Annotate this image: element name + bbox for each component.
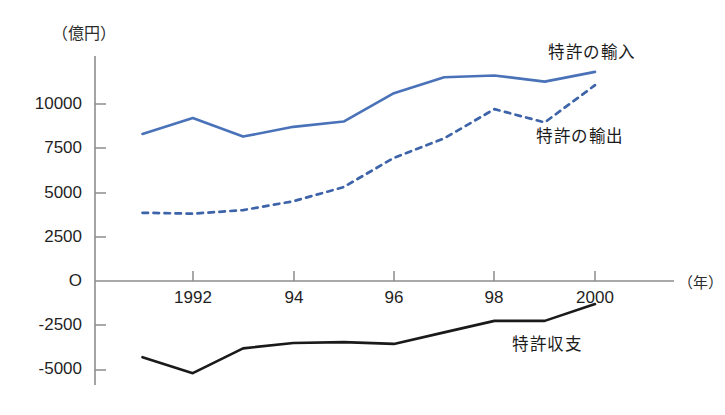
- ytick-label-10000: 10000: [12, 94, 82, 114]
- xtick-label-2000: 2000: [560, 288, 630, 308]
- patent-balance-line-chart: （億円） （年） 10000 7500 5000 2500: [0, 0, 725, 415]
- ytick-label-5000: 5000: [12, 183, 82, 203]
- ytick-label-2500: 2500: [12, 227, 82, 247]
- series-label-patent-balance: 特許収支: [512, 331, 582, 355]
- series-line-patent-import: [143, 72, 596, 137]
- x-axis-ticks: [193, 271, 595, 281]
- xtick-label-98: 98: [464, 288, 524, 308]
- ytick-label-minus-5000: -5000: [12, 359, 82, 379]
- series-line-patent-export: [143, 85, 596, 213]
- ytick-label-minus-2500: -2500: [12, 315, 82, 335]
- ytick-label-zero: O: [12, 271, 82, 291]
- ytick-label-7500: 7500: [12, 138, 82, 158]
- xtick-label-1992: 1992: [158, 288, 228, 308]
- y-axis-ticks: [95, 104, 106, 370]
- series-label-patent-import: 特許の輸入: [548, 39, 636, 63]
- xtick-label-94: 94: [264, 288, 324, 308]
- series-label-patent-export: 特許の輸出: [536, 123, 624, 147]
- xtick-label-96: 96: [364, 288, 424, 308]
